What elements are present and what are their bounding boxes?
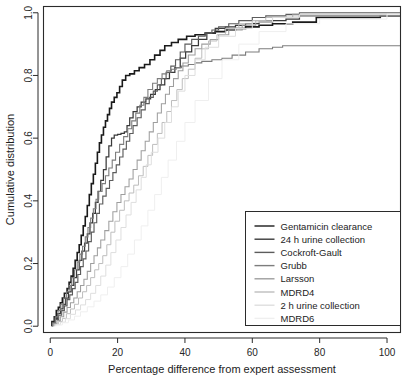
y-tick-label: 0.4 <box>23 193 34 207</box>
legend: Gentamicin clearance24 h urine collectio… <box>246 212 401 326</box>
legend-item-label: Gentamicin clearance <box>281 221 373 232</box>
x-tick-label: 80 <box>314 347 326 358</box>
legend-item-label: Larsson <box>281 273 315 284</box>
x-axis: 020406080100Percentage difference from e… <box>47 338 395 375</box>
y-tick-label: 0.8 <box>23 68 34 82</box>
y-tick-label: 0.6 <box>23 131 34 145</box>
y-tick-label: 1.0 <box>23 5 34 19</box>
y-tick-label: 0.2 <box>23 256 34 270</box>
legend-item-label: Grubb <box>281 260 307 271</box>
ecdf-chart-figure: 020406080100Percentage difference from e… <box>0 0 409 379</box>
legend-item-label: 24 h urine collection <box>281 234 366 245</box>
cumulative-distribution-chart: 020406080100Percentage difference from e… <box>0 0 409 379</box>
x-tick-label: 100 <box>379 347 396 358</box>
legend-item-label: MDRD4 <box>281 287 315 298</box>
x-tick-label: 40 <box>179 347 191 358</box>
x-tick-label: 0 <box>47 347 53 358</box>
y-axis-label: Cumulative distribution <box>4 114 16 225</box>
x-axis-label: Percentage difference from expert assess… <box>108 363 336 375</box>
y-axis: 0.00.20.40.60.81.0Cumulative distributio… <box>4 5 38 333</box>
legend-item-label: 2 h urine collection <box>281 300 360 311</box>
y-tick-label: 0.0 <box>23 319 34 333</box>
legend-item-label: MDRD6 <box>281 313 315 324</box>
legend-item-label: Cockroft-Gault <box>281 247 343 258</box>
x-tick-label: 20 <box>112 347 124 358</box>
x-tick-label: 60 <box>247 347 259 358</box>
